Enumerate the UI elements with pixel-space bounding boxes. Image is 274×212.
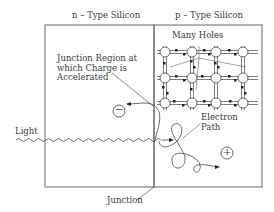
positive-charge-symbol: + bbox=[223, 147, 231, 157]
light-wave bbox=[16, 139, 161, 142]
negative-charge-symbol: − bbox=[115, 105, 123, 115]
solar-cell-diagram bbox=[0, 0, 274, 212]
light-arrowhead bbox=[169, 138, 174, 142]
electron-return-path bbox=[127, 103, 160, 140]
crystal-lattice bbox=[157, 46, 258, 110]
electron-path-line2: Path bbox=[201, 123, 238, 133]
p-type-title: p – Type Silicon bbox=[175, 11, 243, 21]
electron-path-arrowhead bbox=[215, 165, 220, 169]
light-label: Light bbox=[15, 127, 38, 137]
junction-label: Junction bbox=[107, 196, 143, 206]
junction-region-label: Junction Region at which Charge is Accel… bbox=[57, 54, 137, 83]
many-holes-label: Many Holes bbox=[172, 31, 223, 41]
many-holes-pointers bbox=[170, 46, 246, 90]
bond-electrons bbox=[162, 49, 247, 107]
n-type-region bbox=[45, 25, 154, 187]
junction-region-line3: Accelerated bbox=[57, 73, 137, 83]
n-type-title: n – Type Silicon bbox=[72, 11, 140, 21]
electron-path-label: Electron Path bbox=[201, 113, 238, 132]
